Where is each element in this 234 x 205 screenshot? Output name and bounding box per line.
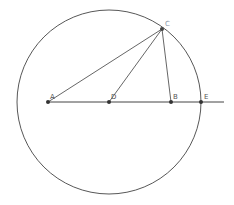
label-d: D — [111, 93, 116, 101]
label-a: A — [50, 93, 55, 101]
segment-bc — [162, 29, 171, 102]
diagram-canvas: A D B E C — [0, 0, 234, 205]
segment-dc — [109, 29, 162, 102]
segment-ac — [48, 29, 162, 102]
geometry-figure: A D B E C — [0, 0, 234, 205]
label-e: E — [204, 93, 208, 101]
point-c — [160, 27, 164, 31]
label-c: C — [165, 20, 170, 28]
label-b: B — [173, 93, 178, 101]
point-e — [199, 100, 203, 104]
